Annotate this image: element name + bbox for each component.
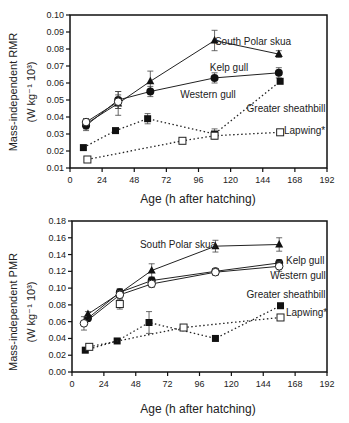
- bottom-xlabel: Age (h after hatching): [140, 402, 255, 416]
- data-point-marker: [82, 118, 90, 126]
- y-tick-label: 0.12: [48, 266, 66, 276]
- y-tick-label: 0.08: [46, 44, 64, 54]
- top-label-sheathbill: Greater sheathbill: [247, 103, 326, 114]
- data-point-marker: [148, 280, 156, 288]
- data-point-marker: [277, 129, 284, 136]
- series-line: [87, 132, 280, 159]
- figure: 0.010.020.030.040.050.060.070.080.090.10…: [0, 0, 349, 423]
- x-tick-label: 48: [131, 379, 141, 389]
- bottom-ylabel: Mass-independent PMR: [7, 253, 19, 371]
- data-point-marker: [211, 132, 218, 139]
- data-point-marker: [275, 263, 283, 271]
- top-xlabel: Age (h after hatching): [140, 192, 255, 206]
- x-tick-label: 144: [256, 379, 271, 389]
- top-ylabel: Mass-independent RMR: [7, 33, 19, 152]
- data-point-marker: [114, 98, 122, 106]
- x-tick-label: 72: [163, 379, 173, 389]
- x-tick-label: 24: [99, 379, 109, 389]
- data-point-marker: [146, 319, 153, 326]
- data-point-marker: [116, 301, 123, 308]
- data-point-marker: [146, 88, 154, 96]
- y-tick-label: 0.03: [46, 129, 64, 139]
- bottom-label-western: Western gull: [270, 270, 325, 281]
- data-point-marker: [211, 74, 219, 82]
- top-label-kelp: Kelp gull: [210, 62, 248, 73]
- x-tick-label: 72: [161, 175, 171, 185]
- x-tick-label: 24: [97, 175, 107, 185]
- data-point-marker: [180, 324, 187, 331]
- x-tick-label: 0: [69, 379, 74, 389]
- data-point-marker: [179, 137, 186, 144]
- x-tick-label: 120: [224, 379, 239, 389]
- y-tick-label: 0.02: [46, 146, 64, 156]
- x-tick-label: 120: [223, 175, 238, 185]
- data-point-marker: [212, 335, 219, 342]
- data-point-marker: [146, 77, 154, 85]
- y-tick-label: 0.04: [46, 112, 64, 122]
- x-tick-label: 144: [255, 175, 270, 185]
- data-point-marker: [212, 268, 220, 276]
- x-tick-label: 48: [129, 175, 139, 185]
- bottom-label-sheathbill: Greater sheathbill: [247, 289, 326, 300]
- x-tick-label: 168: [288, 379, 303, 389]
- data-point-marker: [116, 291, 124, 299]
- y-tick-label: 0.00: [48, 367, 66, 377]
- y-tick-label: 0.10: [46, 10, 64, 20]
- bottom-ylabel-units: (W kg⁻¹ 10³): [25, 282, 37, 343]
- data-point-marker: [275, 69, 283, 77]
- data-point-marker: [112, 127, 119, 134]
- data-point-marker: [277, 302, 284, 309]
- data-point-marker: [275, 240, 283, 248]
- x-tick-label: 96: [193, 175, 203, 185]
- bottom-label-skua: South Polar skua: [140, 239, 217, 250]
- data-point-marker: [86, 343, 93, 350]
- y-tick-label: 0.18: [48, 216, 66, 226]
- data-point-marker: [84, 156, 91, 163]
- y-tick-label: 0.14: [48, 250, 66, 260]
- y-tick-label: 0.06: [46, 78, 64, 88]
- y-tick-label: 0.04: [48, 333, 66, 343]
- top-label-lapwing: Lapwing*: [284, 125, 325, 136]
- x-tick-label: 168: [287, 175, 302, 185]
- bottom-label-kelp: Kelp gull: [286, 255, 324, 266]
- data-point-marker: [80, 144, 87, 151]
- y-tick-label: 0.06: [48, 317, 66, 327]
- y-tick-label: 0.07: [46, 61, 64, 71]
- y-tick-label: 0.10: [48, 283, 66, 293]
- top-label-skua: South Polar skua: [215, 36, 292, 47]
- data-point-marker: [144, 115, 151, 122]
- y-tick-label: 0.01: [46, 163, 64, 173]
- x-tick-label: 192: [319, 379, 334, 389]
- series-line: [86, 102, 118, 122]
- bottom-label-lapwing: Lapwing*: [286, 307, 327, 318]
- y-tick-label: 0.16: [48, 233, 66, 243]
- top-label-western: Western gull: [180, 89, 235, 100]
- x-tick-label: 96: [194, 379, 204, 389]
- top-ylabel-units: (W kg⁻¹ 10³): [25, 62, 37, 123]
- data-point-marker: [277, 78, 284, 85]
- data-point-marker: [277, 314, 284, 321]
- y-tick-label: 0.08: [48, 300, 66, 310]
- y-tick-label: 0.09: [46, 27, 64, 37]
- x-tick-label: 0: [67, 175, 72, 185]
- y-tick-label: 0.02: [48, 350, 66, 360]
- x-tick-label: 192: [319, 175, 334, 185]
- data-point-marker: [80, 320, 88, 328]
- y-tick-label: 0.05: [46, 95, 64, 105]
